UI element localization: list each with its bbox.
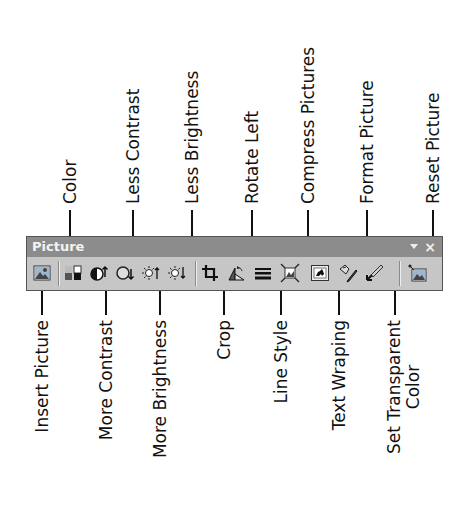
callout-line-line-style: [280, 291, 282, 315]
format-picture-button[interactable]: [337, 262, 359, 284]
label-crop: Crop: [214, 320, 234, 360]
callout-line-format-picture: [366, 210, 368, 236]
less-brightness-button[interactable]: [166, 262, 188, 284]
label-format-picture: Format Picture: [357, 80, 377, 204]
callout-line-crop: [223, 291, 225, 315]
picture-toolbar: Picture ×: [26, 236, 443, 291]
separator: [195, 261, 197, 286]
insert-picture-button[interactable]: [31, 262, 53, 284]
callout-line-color: [69, 210, 71, 236]
crop-icon: [200, 263, 220, 283]
label-set-transparent-color: Set TransparentColor: [385, 320, 423, 454]
callout-line-text-wrapping: [338, 291, 340, 315]
more-contrast-button[interactable]: [88, 262, 110, 284]
set-transparent-color-icon: [364, 263, 384, 283]
text-wrapping-button[interactable]: [309, 262, 331, 284]
color-icon: [63, 263, 83, 283]
rotate-left-icon: [226, 263, 246, 283]
compress-pictures-button[interactable]: [279, 262, 301, 284]
label-less-brightness: Less Brightness: [182, 71, 202, 204]
line-style-button[interactable]: [252, 262, 274, 284]
label-color: Color: [60, 160, 80, 204]
more-brightness-icon: [141, 263, 161, 283]
separator: [399, 261, 401, 286]
dropdown-arrow-icon[interactable]: [410, 244, 418, 249]
close-icon[interactable]: ×: [424, 238, 436, 256]
label-compress-pictures: Compress Pictures: [298, 47, 318, 204]
callout-line-less-brightness: [191, 210, 193, 236]
rotate-left-button[interactable]: [225, 262, 247, 284]
less-brightness-icon: [167, 263, 187, 283]
toolbar-button-row: [27, 257, 442, 290]
callout-line-rotate-left: [251, 210, 253, 236]
set-transparent-color-button[interactable]: [363, 262, 385, 284]
callout-line-reset-picture: [432, 210, 434, 236]
label-less-contrast: Less Contrast: [123, 89, 143, 204]
reset-picture-icon: [407, 263, 427, 283]
insert-picture-icon: [32, 263, 52, 283]
format-picture-icon: [338, 263, 358, 283]
text-wrapping-icon: [310, 263, 330, 283]
label-rotate-left: Rotate Left: [242, 111, 262, 204]
less-contrast-icon: [115, 263, 135, 283]
label-more-brightness: More Brightness: [150, 320, 170, 458]
reset-picture-button[interactable]: [406, 262, 428, 284]
color-button[interactable]: [62, 262, 84, 284]
callout-line-more-brightness: [159, 291, 161, 315]
callout-line-compress-pictures: [307, 210, 309, 236]
toolbar-title: Picture: [32, 239, 84, 254]
label-reset-picture: Reset Picture: [423, 93, 443, 204]
more-contrast-icon: [89, 263, 109, 283]
callout-line-set-transparent-color: [394, 291, 396, 315]
more-brightness-button[interactable]: [140, 262, 162, 284]
callout-line-more-contrast: [105, 291, 107, 315]
label-line-style: Line Style: [271, 320, 291, 404]
toolbar-titlebar[interactable]: Picture ×: [27, 237, 442, 257]
separator: [58, 261, 60, 286]
line-style-icon: [253, 263, 273, 283]
label-set-transparent-line1: Set Transparent: [384, 320, 404, 454]
compress-pictures-icon: [280, 263, 300, 283]
label-more-contrast: More Contrast: [96, 320, 116, 440]
callout-line-insert-picture: [41, 291, 43, 315]
crop-button[interactable]: [199, 262, 221, 284]
label-text-wrapping: Text Wraping: [329, 320, 349, 430]
callout-line-less-contrast: [132, 210, 134, 236]
less-contrast-button[interactable]: [114, 262, 136, 284]
label-set-transparent-line2: Color: [403, 365, 423, 409]
label-insert-picture: Insert Picture: [32, 320, 52, 433]
